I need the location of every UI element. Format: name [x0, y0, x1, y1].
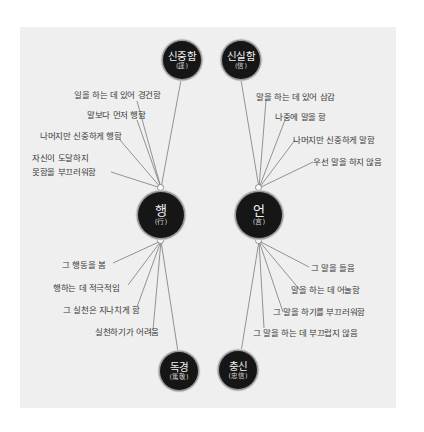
label-haeng-bottom-3: 그 실천은 지나치게 함: [63, 305, 140, 316]
line-eon-bottom-2: [259, 241, 300, 290]
line-haeng-bottom-2: [128, 241, 161, 285]
node-sinsilham: 신실함 (信): [222, 41, 260, 79]
line-sinjungham: [161, 80, 181, 188]
hub-haeng-bottom: [157, 237, 164, 244]
label-eon-bottom-2: 말을 하는 데 어눌함: [291, 285, 360, 296]
line-haeng-bottom-4: [153, 241, 161, 330]
hub-haeng-top: [157, 184, 164, 191]
line-eon-top-1: [259, 100, 266, 188]
node-label: 독경: [170, 361, 189, 373]
node-hanja: (言): [253, 218, 265, 227]
line-haeng-top-3: [120, 140, 161, 188]
node-label: 신실함: [227, 50, 256, 62]
label-eon-top-3: 나머지만 신중하게 말함: [293, 135, 375, 146]
line-dokgyeong: [161, 241, 178, 352]
label-haeng-top-2: 말보다 먼저 행함: [87, 110, 146, 121]
label-haeng-top-4a: 자신이 도달하지: [32, 153, 88, 164]
hub-eon-bottom: [255, 237, 262, 244]
line-haeng-bottom-3: [137, 241, 161, 307]
node-label: 행: [155, 203, 167, 218]
label-eon-top-1: 말을 하는 데 있어 삼감: [256, 92, 335, 103]
label-haeng-bottom-4: 실천하기가 어려움: [95, 327, 159, 338]
label-eon-bottom-4: 그 말을 하는 데 부끄럽지 않음: [253, 328, 357, 339]
label-eon-top-4: 우선 말을 하지 않음: [313, 157, 382, 168]
label-haeng-bottom-1: 그 행동을 봄: [62, 260, 105, 271]
node-label: 충신: [229, 360, 248, 372]
node-eon: 언 (言): [236, 192, 282, 238]
line-haeng-top-4: [111, 172, 161, 188]
label-eon-top-2: 나중에 말을 함: [275, 112, 326, 123]
node-hanja: (篤敬): [169, 373, 188, 382]
label-haeng-bottom-2: 행하는 데 적극적임: [53, 283, 119, 294]
node-sinjungham: 신중함 (謹): [163, 41, 201, 79]
line-eon-top-3: [259, 140, 295, 188]
label-eon-bottom-3: 그 말을 하기를 부끄러워함: [273, 307, 365, 318]
label-haeng-top-4b: 못함을 부끄러워함: [32, 167, 96, 178]
node-chungsin: 충신 (忠信): [219, 351, 257, 389]
connector-lines: [0, 0, 424, 432]
line-haeng-top-2: [137, 120, 161, 188]
node-label: 신중함: [168, 50, 197, 62]
hub-eon-top: [255, 184, 262, 191]
label-haeng-top-3: 나머지만 신중하게 행함: [40, 131, 122, 142]
node-label: 언: [253, 203, 265, 218]
label-haeng-top-1: 일을 하는 데 있어 경건함: [74, 90, 161, 101]
node-hanja: (行): [155, 218, 167, 227]
node-hanja: (信): [235, 62, 247, 71]
node-hanja: (謹): [176, 62, 188, 71]
node-hanja: (忠信): [228, 372, 247, 381]
node-haeng: 행 (行): [138, 192, 184, 238]
node-dokgyeong: 독경 (篤敬): [160, 352, 198, 390]
label-eon-bottom-1: 그 말을 들음: [311, 263, 354, 274]
